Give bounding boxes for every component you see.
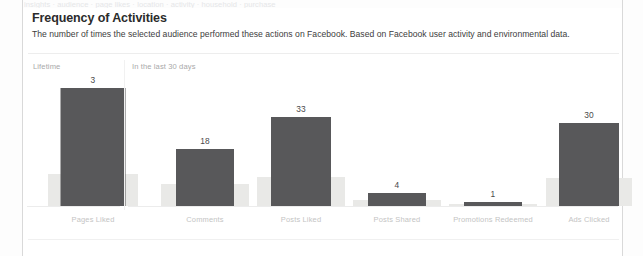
document-page: insights · audience · page likes · locat… <box>0 0 643 256</box>
value-bar-ads-clicked <box>559 123 619 206</box>
card-subtitle: The number of times the selected audienc… <box>32 29 616 40</box>
category-label-posts-shared: Posts Shared <box>374 215 421 224</box>
value-label-posts-shared: 4 <box>395 180 400 190</box>
card-bottom-divider <box>28 239 619 240</box>
header-divider <box>28 53 619 54</box>
frequency-of-activities-card: Frequency of Activities The number of ti… <box>23 8 622 256</box>
value-label-posts-liked: 33 <box>296 104 306 114</box>
value-bar-comments <box>176 149 234 206</box>
category-label-comments: Comments <box>186 215 223 224</box>
value-label-ads-clicked: 30 <box>584 110 594 120</box>
chart-group-lifetime: Lifetime 3 Pages Liked <box>23 56 124 236</box>
value-label-promotions-redeemed: 1 <box>491 189 496 199</box>
lifetime-plot-area: 3 Pages Liked <box>23 56 124 236</box>
value-label-comments: 18 <box>200 136 210 146</box>
bar-slot-promotions-redeemed[interactable]: 1 Promotions Redeemed <box>443 56 543 236</box>
bar-slot-posts-liked[interactable]: 33 Posts Liked <box>251 56 351 236</box>
last-30-days-plot-area: 18 Comments 33 Posts Liked 4 Posts Share… <box>124 56 622 236</box>
chart-group-last-30-days: In the last 30 days 18 Comments 33 Posts… <box>124 56 622 236</box>
bar-slot-posts-shared[interactable]: 4 Posts Shared <box>347 56 447 236</box>
category-label-posts-liked: Posts Liked <box>281 215 321 224</box>
page-title: Frequency of Activities <box>32 11 616 26</box>
value-bar-posts-liked <box>271 117 331 206</box>
category-label-promotions-redeemed: Promotions Redeemed <box>453 215 533 224</box>
frequency-bar-chart: Lifetime 3 Pages Liked In the last 30 da… <box>23 56 622 236</box>
bar-slot-ads-clicked[interactable]: 30 Ads Clicked <box>539 56 639 236</box>
value-bar-promotions-redeemed <box>464 202 522 206</box>
category-label-ads-clicked: Ads Clicked <box>568 215 609 224</box>
value-label-pages-liked: 3 <box>91 75 96 85</box>
bar-slot-comments[interactable]: 18 Comments <box>155 56 255 236</box>
card-header: Frequency of Activities The number of ti… <box>32 11 616 40</box>
category-label-pages-liked: Pages Liked <box>72 215 115 224</box>
value-bar-posts-shared <box>368 193 426 206</box>
value-bar-pages-liked <box>61 88 126 206</box>
